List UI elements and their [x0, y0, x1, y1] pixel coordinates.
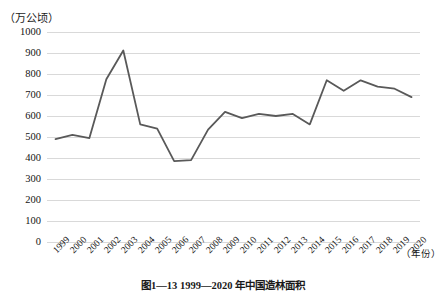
- y-tick-label: 200: [3, 194, 41, 205]
- chart-plot-area: 10009008007006005004003002001000 1999200…: [0, 0, 446, 294]
- y-tick-label: 500: [3, 131, 41, 142]
- data-series-line: [55, 50, 411, 161]
- x-axis-unit-label: （年份）: [401, 249, 441, 260]
- y-tick-label: 700: [3, 89, 41, 100]
- y-tick-label: 1000: [3, 26, 41, 37]
- figure-caption: 图1—13 1999—2020 年中国造林面积: [0, 279, 446, 292]
- y-tick-label: 800: [3, 68, 41, 79]
- figure-container: （万公顷） 10009008007006005004003002001000 1…: [0, 0, 446, 294]
- y-tick-label: 900: [3, 47, 41, 58]
- y-tick-label: 600: [3, 110, 41, 121]
- y-tick-label: 300: [3, 173, 41, 184]
- y-tick-label: 400: [3, 152, 41, 163]
- y-tick-label: 100: [3, 215, 41, 226]
- y-tick-label: 0: [3, 236, 41, 247]
